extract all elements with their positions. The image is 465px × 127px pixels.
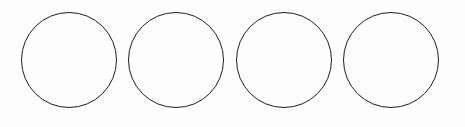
circle-2 (128, 12, 224, 108)
circle-1 (21, 12, 117, 108)
diagram-canvas (0, 0, 465, 127)
circle-4 (343, 12, 439, 108)
circle-3 (236, 12, 332, 108)
